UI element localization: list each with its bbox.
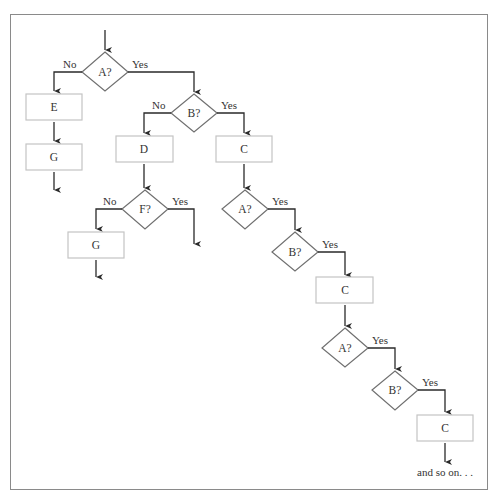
decision-b3-label: B? — [389, 384, 402, 396]
decision-a1: A? — [82, 52, 128, 91]
decision-b2-label: B? — [289, 246, 302, 258]
process-c2-label: C — [341, 284, 349, 296]
edge-f-yes — [168, 209, 194, 244]
edge-f-yes-label: Yes — [172, 195, 188, 207]
decision-a3: A? — [322, 328, 368, 367]
edge-a3-yes-label: Yes — [372, 334, 388, 346]
process-e: E — [26, 94, 82, 120]
process-c3-label: C — [441, 422, 449, 434]
edge-b2-yes-label: Yes — [322, 238, 338, 250]
process-g2: G — [68, 232, 124, 258]
edge-b1-yes — [217, 113, 244, 133]
edge-b1-no-label: No — [152, 99, 166, 111]
decision-f: F? — [122, 190, 168, 229]
edge-a3-yes — [368, 348, 395, 369]
decision-b1-label: B? — [188, 107, 201, 119]
edge-b1-yes-label: Yes — [221, 99, 237, 111]
edge-f-no — [96, 209, 122, 229]
process-d-label: D — [140, 143, 148, 155]
decision-b3: B? — [372, 371, 418, 410]
edge-b3-yes — [418, 390, 445, 412]
process-d: D — [116, 136, 173, 162]
edge-a1-yes-label: Yes — [132, 58, 148, 70]
decision-a2-label: A? — [238, 203, 251, 215]
edge-a1-no-label: No — [63, 58, 77, 70]
decision-f-label: F? — [139, 203, 151, 215]
process-g1-label: G — [50, 151, 58, 163]
process-g1: G — [26, 144, 82, 170]
edge-b1-no — [144, 113, 171, 133]
process-c3: C — [417, 415, 473, 441]
decision-b2: B? — [272, 232, 318, 271]
process-c2: C — [316, 277, 373, 303]
decision-b1: B? — [171, 94, 217, 132]
decision-a1-label: A? — [98, 66, 111, 78]
decision-a3-label: A? — [338, 342, 351, 354]
flowchart: A? No Yes E G B? No Yes D C F? No Y — [0, 0, 500, 502]
edge-f-no-label: No — [103, 195, 117, 207]
process-c1: C — [216, 136, 272, 162]
edge-b3-yes-label: Yes — [422, 376, 438, 388]
edge-b2-yes — [318, 252, 345, 275]
decision-a2: A? — [222, 190, 268, 229]
continuation-text: and so on. . . — [417, 466, 473, 478]
process-e-label: E — [50, 101, 57, 113]
edge-a2-yes — [268, 209, 295, 230]
process-c1-label: C — [240, 143, 248, 155]
edge-a1-no — [54, 72, 82, 91]
edge-a1-yes — [128, 72, 194, 92]
edge-a2-yes-label: Yes — [272, 195, 288, 207]
process-g2-label: G — [92, 239, 100, 251]
